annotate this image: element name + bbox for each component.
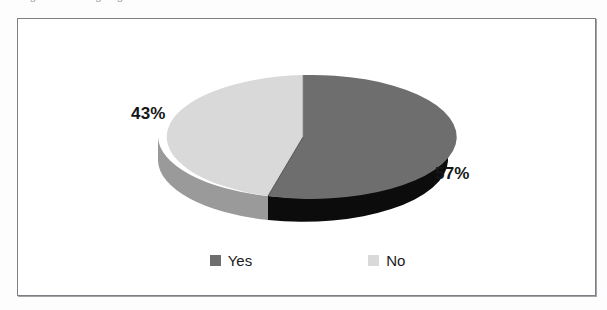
legend-label-yes: Yes — [228, 253, 252, 268]
chart-legend: Yes No — [18, 245, 597, 275]
pie-plot-area: 43% 57% — [18, 19, 597, 229]
data-label-yes: 57% — [435, 164, 470, 184]
legend-item-no[interactable]: No — [368, 253, 405, 268]
chart-frame: 43% 57% Yes No — [17, 18, 596, 296]
figure-caption: Figure 5: Screening Program — [22, 0, 442, 3]
figure-caption-text: Figure 5: Screening Program — [22, 0, 442, 2]
legend-label-no: No — [386, 253, 405, 268]
pie-chart-3d — [158, 71, 448, 203]
data-label-no: 43% — [131, 104, 166, 124]
legend-swatch-yes-icon — [210, 255, 221, 266]
legend-item-yes[interactable]: Yes — [210, 253, 252, 268]
legend-swatch-no-icon — [368, 255, 379, 266]
